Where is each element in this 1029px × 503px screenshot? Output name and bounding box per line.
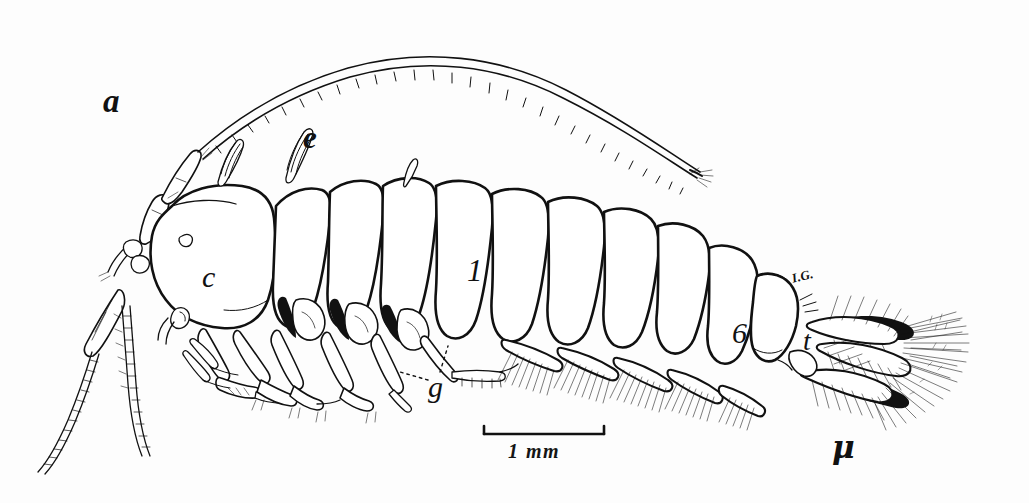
- label-pereonite-1: 1: [467, 255, 483, 286]
- scale-bar: [484, 426, 604, 434]
- label-pereonite-6: 6: [732, 318, 747, 348]
- label-cephalon-c: c: [202, 262, 215, 292]
- pereopods-group: [183, 329, 518, 423]
- figure-plate: .ink { fill: none; stroke: #111111; stro…: [0, 0, 1029, 503]
- crustacean-illustration: .ink { fill: none; stroke: #111111; stro…: [0, 0, 1029, 503]
- antenna-lower-left-group: [38, 290, 150, 474]
- label-gnathopod-g: g: [428, 372, 443, 402]
- scale-bar-label: 1 mm: [508, 440, 560, 463]
- label-telson-t: t: [803, 327, 811, 355]
- label-uropod-mu: μ: [832, 432, 855, 463]
- label-antenna-a: a: [103, 85, 120, 118]
- dorsal-processes: [218, 129, 418, 187]
- antennule-accessory-group: [99, 240, 149, 281]
- uropod-fan-group: [778, 294, 969, 430]
- label-dorsal-process-e: e: [303, 122, 317, 153]
